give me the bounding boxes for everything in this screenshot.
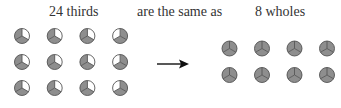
whole-circle: [255, 41, 270, 56]
thirds-circle-group: [14, 29, 127, 96]
third-circle: [14, 55, 29, 70]
third-circle: [47, 55, 62, 70]
whole-circle: [287, 68, 302, 83]
wholes-circle-group: [222, 41, 335, 83]
third-circle: [113, 81, 128, 96]
third-circle: [15, 29, 30, 44]
whole-circle: [222, 68, 237, 83]
right-arrow-icon: [157, 60, 189, 69]
whole-circle: [222, 41, 237, 56]
third-circle: [80, 55, 95, 70]
third-circle: [47, 81, 62, 96]
third-circle: [15, 81, 30, 96]
third-circle: [47, 29, 62, 44]
whole-circle: [287, 41, 302, 56]
whole-circle: [255, 68, 270, 83]
whole-circle: [320, 41, 335, 56]
third-circle: [113, 29, 128, 44]
third-circle: [80, 29, 95, 44]
whole-circle: [320, 68, 335, 83]
third-circle: [113, 55, 128, 70]
fraction-diagram: [0, 0, 341, 108]
third-circle: [80, 81, 95, 96]
